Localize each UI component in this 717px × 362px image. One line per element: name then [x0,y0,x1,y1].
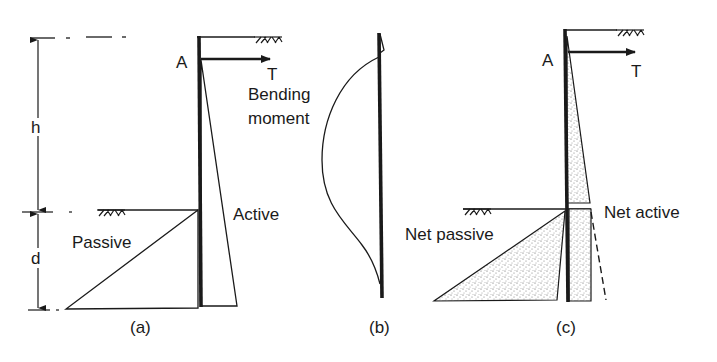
sheet-pile-wall [199,36,201,307]
net-active-label: Net active [604,203,680,222]
bending-label-line1: Bending [248,85,310,104]
ground-hatch-icon [254,37,282,43]
height-label: h [31,118,40,137]
passive-label: Passive [72,233,132,252]
anchor-label: A [176,53,188,72]
active-pressure-triangle [201,60,237,306]
top-reference-line [30,37,126,38]
dimension-line [22,40,72,310]
tie-label-c: T [631,62,641,81]
net-active-lower-region [569,209,591,301]
bending-moment-curve [322,57,380,284]
tie-label: T [267,65,277,84]
caption-c: (c) [556,318,576,337]
anchor-label-c: A [542,51,554,70]
active-dashed-line [591,212,606,300]
panel-a: h d A T Active Passive (a) [22,36,282,337]
dredge-hatch-icon-c [463,209,491,215]
depth-label: d [31,249,40,268]
ground-hatch-icon-c [616,30,644,36]
panel-c: A T Net active Net passive (c) [405,29,680,337]
passive-pressure-triangle [66,210,198,309]
net-active-upper-region [567,36,590,203]
caption-b: (b) [369,318,390,337]
sheet-pile-wall-b [379,33,382,298]
diagram-canvas: h d A T Active Passive (a) Bending momen… [0,0,717,362]
caption-a: (a) [130,318,151,337]
sheet-pile-diagram: h d A T Active Passive (a) Bending momen… [0,0,717,362]
net-passive-label: Net passive [405,225,494,244]
active-label: Active [233,205,279,224]
dredge-hatch-icon [97,210,125,216]
bending-label-line2: moment [248,109,310,128]
